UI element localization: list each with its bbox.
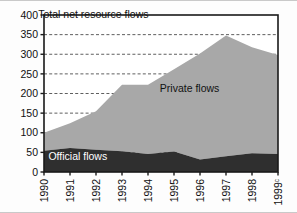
x-tick-label: 1990 [38, 179, 50, 203]
y-tick-label: 350 [20, 28, 38, 40]
y-tick-label: 100 [20, 126, 38, 138]
x-axis: 1990199119921993199419951996199719981999… [38, 172, 284, 206]
x-tick-label: 1992 [90, 179, 102, 203]
y-tick-label: 250 [20, 68, 38, 80]
y-tick-label: 200 [20, 87, 38, 99]
y-tick-label: 400 [20, 9, 38, 21]
y-tick-label: 50 [26, 146, 38, 158]
y-tick-label: 150 [20, 107, 38, 119]
x-tick-label: 1991 [64, 179, 76, 203]
y-tick-label: 300 [20, 48, 38, 60]
chart-figure: 050100150200250300350400 199019911992199… [0, 0, 297, 213]
x-tick-label: 1995 [168, 179, 180, 203]
x-tick-label: 1994 [142, 179, 154, 203]
y-tick-label: 0 [32, 166, 38, 178]
x-tick-label: 1996 [194, 179, 206, 203]
x-tick-label: 1998 [246, 179, 258, 203]
annotation-label: Private flows [160, 82, 220, 94]
x-tick-label: 1997 [220, 179, 232, 203]
x-tick-label: 1999c [272, 178, 284, 205]
y-axis: 050100150200250300350400 [20, 9, 44, 178]
annotation-label: Official flows [48, 150, 107, 162]
annotation-label: Total net resource flows [38, 8, 148, 20]
x-tick-label: 1993 [116, 179, 128, 203]
stacked-area-chart: 050100150200250300350400 199019911992199… [0, 0, 297, 213]
